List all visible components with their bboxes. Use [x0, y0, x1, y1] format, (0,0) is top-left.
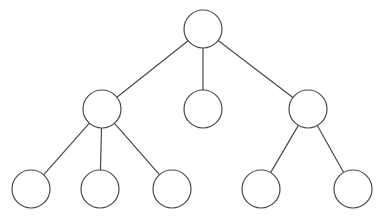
nodes-layer — [12, 10, 372, 208]
node-circle — [242, 170, 280, 208]
tree-node-root — [184, 10, 222, 48]
node-circle — [12, 170, 50, 208]
node-circle — [153, 170, 191, 208]
tree-node-n3b — [334, 170, 372, 208]
tree-node-n2 — [184, 90, 222, 128]
tree-edge-n1-n1c — [115, 123, 160, 174]
node-circle — [184, 10, 222, 48]
node-circle — [184, 90, 222, 128]
tree-edge-n3-n3b — [317, 126, 343, 173]
tree-edge-root-n1 — [117, 41, 188, 97]
tree-diagram-svg — [0, 0, 382, 220]
tree-node-n1 — [83, 90, 121, 128]
tree-node-n1c — [153, 170, 191, 208]
node-circle — [81, 170, 119, 208]
tree-edge-n3-n3a — [271, 125, 299, 172]
node-circle — [334, 170, 372, 208]
node-circle — [289, 90, 327, 128]
tree-node-n3 — [289, 90, 327, 128]
tree-edge-root-n3 — [218, 41, 293, 98]
tree-node-n1a — [12, 170, 50, 208]
tree-node-n1b — [81, 170, 119, 208]
node-circle — [83, 90, 121, 128]
tree-edge-n1-n1a — [44, 123, 90, 175]
tree-edge-n1-n1b — [100, 128, 101, 170]
tree-diagram — [0, 0, 382, 220]
tree-node-n3a — [242, 170, 280, 208]
